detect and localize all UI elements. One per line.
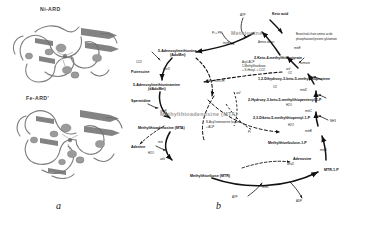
cofactor-co-hcooh: CO + HCOOH	[206, 80, 224, 83]
enzyme-mtnA: mtnA	[320, 149, 327, 152]
ribbon-structure-fe-ard	[8, 100, 133, 185]
figure-root: Ni-ARD	[0, 0, 370, 227]
label-mta-heading: Methylthioadenosine (MTA)	[160, 112, 237, 118]
panel-label-b: b	[216, 200, 221, 211]
label-diketo: 2,3-Diketo-5-methylthiopentyl-1-P	[253, 117, 310, 121]
enzyme-ard-prime: ard'	[236, 92, 241, 95]
label-dihydroxy: 1,2-Dihydroxy-3-keto-5-methylthiopentene	[258, 78, 330, 82]
enzyme-mtnE: mtnE	[294, 47, 301, 50]
cofactor-pi: Pi	[248, 131, 251, 134]
enzyme-mtnK: mtnK	[262, 186, 269, 189]
label-keto-acid: Keto acid	[272, 13, 288, 17]
annotation-mtr-homo2: + S-Hexyl- + CO2	[242, 69, 265, 72]
ribbon-structure-ni-ard	[5, 12, 130, 92]
cofactor-adp-b: ADP	[296, 200, 302, 203]
enzyme-speD: speD	[163, 68, 170, 71]
annotation-bcaa: Branched-chain amino acids	[296, 33, 332, 36]
cofactor-h2o-a: H2O	[286, 104, 292, 107]
enzyme-mtnB: mtnB	[305, 130, 312, 133]
annotation-acyl-hsl: N-Acyl homoserine lactone	[206, 121, 241, 124]
panel-label-a: a	[56, 200, 61, 211]
label-mtr: Methylthioribose (MTR)	[190, 175, 230, 179]
label-mtr-1-p: MTR-1-P	[324, 169, 339, 173]
label-dadomet-abbr: (dAdoMet)	[148, 88, 166, 92]
cofactor-h2o-b: H2O	[288, 124, 294, 127]
annotation-acyl-hsl2: + ACP	[206, 126, 214, 129]
cofactor-amino-donor: Amino donor	[258, 41, 274, 44]
label-mta: Methylthioadenosine (MTA)	[138, 127, 185, 131]
enzyme-deoD: deoD	[287, 163, 294, 166]
label-adenine: Adenine	[131, 146, 145, 150]
enzyme-metK: metK	[223, 42, 230, 45]
label-ketobutyrate: 2-Keto-4-methylthiobutyrate	[254, 57, 302, 61]
cofactor-atp: ATP	[240, 14, 245, 17]
annotation-bcaa2: phosphatase/tyrosine glutamate	[296, 38, 337, 41]
enzyme-mtn: mtn	[158, 141, 163, 144]
enzyme-speE: speE	[160, 110, 167, 113]
cofactor-o2-a: O2	[288, 72, 292, 75]
cofactor-pi-ppi: Pi + PPi	[212, 32, 222, 35]
cofactor-nh3: NH3	[330, 120, 336, 123]
label-adenosine: Adenosine	[293, 158, 311, 162]
enzyme-mtnC: mtnC	[305, 110, 312, 113]
enzyme-mtnD: mtnD	[300, 89, 307, 92]
label-spermidine: Spermidine	[131, 100, 151, 104]
cofactor-h2o-c: H2O	[148, 152, 154, 155]
label-adomet-abbr: (AdoMet)	[170, 54, 186, 58]
label-hydroxyketo: 2-Hydroxy-3-keto-5-methylthiopentenyl-1-…	[248, 99, 321, 103]
label-mtru-1-p: Methylthioribulose-1-P	[268, 142, 307, 146]
label-putrescine: Putrescine	[131, 71, 149, 75]
cofactor-formate: formate	[300, 62, 310, 65]
cofactor-o2-b: O2	[273, 86, 277, 89]
cofactor-atp-b: ATP	[232, 196, 237, 199]
label-methionine: Methionine	[231, 31, 262, 37]
cofactor-co2: CO2	[136, 61, 142, 64]
enzyme-add: add	[160, 158, 165, 161]
